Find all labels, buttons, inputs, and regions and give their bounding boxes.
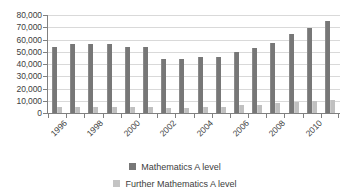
x-axis-label: 1996 — [49, 118, 69, 138]
x-axis-label: 2000 — [121, 118, 141, 138]
x-axis-label: 2002 — [158, 118, 178, 138]
x-axis-labels: 19961998200020022004200620082010 — [48, 118, 339, 152]
bars-container — [48, 15, 339, 113]
bar-chart: 80,00070,00060,00050,00040,00030,00020,0… — [0, 0, 350, 196]
bar-further-mathematics — [294, 102, 299, 113]
bar-further-mathematics — [221, 107, 226, 113]
bar-further-mathematics — [184, 108, 189, 113]
bar-further-mathematics — [330, 100, 335, 113]
bar-further-mathematics — [93, 107, 98, 113]
bar-group — [266, 15, 284, 113]
bar-mathematics — [252, 48, 257, 113]
legend-swatch-icon-further-mathematics — [113, 180, 120, 187]
bar-mathematics — [179, 59, 184, 113]
bar-mathematics — [52, 47, 57, 113]
bar-further-mathematics — [75, 107, 80, 113]
bar-mathematics — [70, 44, 75, 113]
bar-further-mathematics — [166, 108, 171, 113]
bar-further-mathematics — [257, 105, 262, 113]
bar-further-mathematics — [312, 101, 317, 113]
bar-group — [84, 15, 102, 113]
x-axis-label: 2004 — [194, 118, 214, 138]
y-axis-label: 30,000 — [17, 72, 42, 81]
bar-group — [157, 15, 175, 113]
bar-mathematics — [88, 44, 93, 113]
x-axis-label: 2008 — [267, 118, 287, 138]
y-axis-label: 40,000 — [17, 60, 42, 69]
y-axis-label: 80,000 — [17, 11, 42, 20]
x-axis-label: 1998 — [85, 118, 105, 138]
y-axis-label: 60,000 — [17, 35, 42, 44]
bar-group — [103, 15, 121, 113]
bar-mathematics — [143, 47, 148, 113]
chart-legend: Mathematics A level Further Mathematics … — [0, 158, 350, 192]
bar-mathematics — [234, 52, 239, 113]
bar-group — [230, 15, 248, 113]
bar-mathematics — [125, 47, 130, 113]
x-axis-label: 2010 — [303, 118, 323, 138]
bar-further-mathematics — [112, 107, 117, 113]
bar-group — [48, 15, 66, 113]
legend-label-further-mathematics: Further Mathematics A level — [125, 179, 236, 189]
bar-group — [66, 15, 84, 113]
bar-mathematics — [198, 57, 203, 113]
legend-label-mathematics: Mathematics A level — [141, 162, 221, 172]
y-axis-labels: 80,00070,00060,00050,00040,00030,00020,0… — [0, 15, 42, 113]
bar-group — [139, 15, 157, 113]
y-axis-label: 50,000 — [17, 47, 42, 56]
bar-further-mathematics — [148, 107, 153, 113]
y-axis-label: 10,000 — [17, 96, 42, 105]
legend-swatch-icon-mathematics — [129, 163, 136, 170]
bar-group — [194, 15, 212, 113]
x-axis-label: 2006 — [231, 118, 251, 138]
bar-mathematics — [216, 57, 221, 113]
bar-further-mathematics — [275, 103, 280, 113]
bar-group — [248, 15, 266, 113]
bar-mathematics — [107, 44, 112, 113]
bar-group — [321, 15, 339, 113]
bar-further-mathematics — [203, 107, 208, 113]
bar-group — [284, 15, 302, 113]
bar-further-mathematics — [57, 107, 62, 113]
bar-mathematics — [161, 59, 166, 113]
bar-group — [303, 15, 321, 113]
y-axis-label: 0 — [37, 109, 42, 118]
bar-group — [212, 15, 230, 113]
y-axis-label: 20,000 — [17, 84, 42, 93]
bar-further-mathematics — [239, 105, 244, 113]
legend-row-further-mathematics: Further Mathematics A level — [0, 175, 350, 192]
bar-group — [175, 15, 193, 113]
legend-row-mathematics: Mathematics A level — [0, 158, 350, 175]
bar-group — [121, 15, 139, 113]
y-axis-label: 70,000 — [17, 23, 42, 32]
bar-further-mathematics — [130, 107, 135, 113]
